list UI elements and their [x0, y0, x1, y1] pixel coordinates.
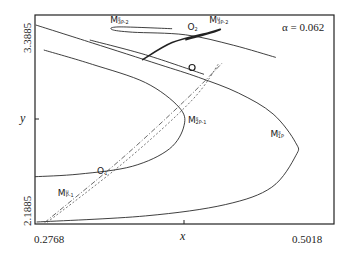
fixed-point-label-o1: O1	[97, 166, 107, 176]
y-tick-max: 3.3885	[21, 22, 33, 53]
series-curve-5	[45, 63, 223, 223]
manifold-label-1: Mu3P-2	[209, 15, 228, 25]
alpha-annotation: α = 0.062	[282, 21, 324, 33]
manifold-label-2: Ms2P-1	[188, 115, 206, 125]
phase-plot: O1O2Ms3P-2Mu3P-2Ms2P-1Ms1PMuP-1 0.2768 0…	[0, 0, 353, 255]
y-tick-min: 2.1885	[21, 195, 33, 226]
x-axis-label: x	[179, 229, 186, 243]
manifold-label-0: Ms3P-2	[110, 15, 128, 25]
series-curve-1	[35, 50, 185, 177]
fixed-point-o	[189, 65, 195, 71]
y-axis-label: y	[19, 111, 26, 125]
x-tick-max: 0.5018	[292, 233, 323, 245]
x-tick-min: 0.2768	[34, 233, 65, 245]
curves-group	[35, 25, 299, 223]
series-curve-0	[36, 25, 299, 222]
manifold-label-3: Ms1P	[270, 129, 284, 139]
manifold-label-4: MuP-1	[58, 188, 74, 198]
series-curve-6	[47, 64, 219, 223]
fixed-point-label-o2: O2	[187, 22, 197, 32]
